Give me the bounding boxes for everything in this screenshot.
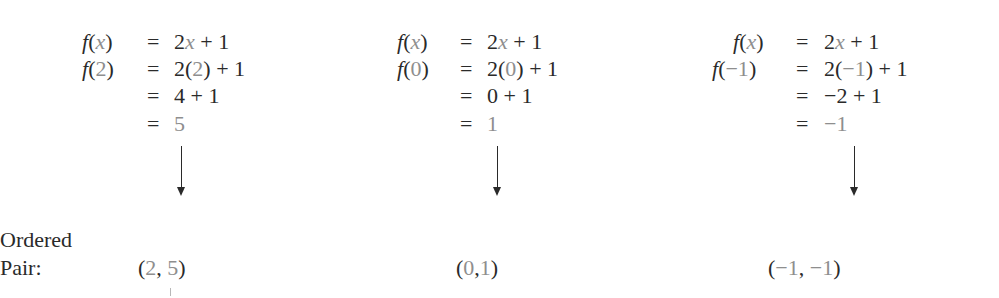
lhs: f(0): [397, 55, 429, 83]
lhs: f(x): [82, 28, 113, 56]
lhs: f(x): [733, 28, 764, 56]
equals-sign: =: [460, 82, 472, 110]
rhs: −2 + 1: [824, 82, 882, 110]
rhs: 2(0) + 1: [487, 55, 558, 83]
lhs: f(2): [82, 55, 114, 83]
rhs: 2(2) + 1: [174, 55, 245, 83]
ordered-pair-label-line1: Ordered: [0, 226, 72, 254]
rhs: 0 + 1: [487, 82, 532, 110]
equals-sign: =: [147, 28, 159, 56]
ordered-pair: (0,1): [456, 254, 498, 282]
rhs: 2(−1) + 1: [824, 55, 907, 83]
rhs: 2x + 1: [824, 28, 879, 56]
lhs: f(−1): [712, 55, 756, 83]
down-arrow-icon: [497, 146, 498, 194]
equals-sign: =: [796, 110, 808, 138]
equals-sign: =: [460, 55, 472, 83]
equals-sign: =: [147, 110, 159, 138]
equals-sign: =: [796, 82, 808, 110]
equals-sign: =: [796, 55, 808, 83]
ordered-pair: (2, 5): [138, 254, 186, 282]
down-arrow-icon: [854, 146, 855, 194]
rhs: 2x + 1: [174, 28, 229, 56]
equals-sign: =: [460, 28, 472, 56]
down-arrow-icon: [181, 146, 182, 194]
equals-sign: =: [147, 55, 159, 83]
rhs: 4 + 1: [174, 82, 219, 110]
equals-sign: =: [460, 110, 472, 138]
ordered-pair: (−1, −1): [768, 254, 841, 282]
result-value: 5: [174, 110, 185, 138]
lhs: f(x): [397, 28, 428, 56]
equals-sign: =: [796, 28, 808, 56]
equals-sign: =: [147, 82, 159, 110]
ordered-pair-label-line2: Pair:: [0, 254, 42, 282]
result-value: 1: [487, 110, 498, 138]
decorative-tick: [170, 288, 171, 296]
rhs: 2x + 1: [487, 28, 542, 56]
result-value: −1: [824, 110, 847, 138]
